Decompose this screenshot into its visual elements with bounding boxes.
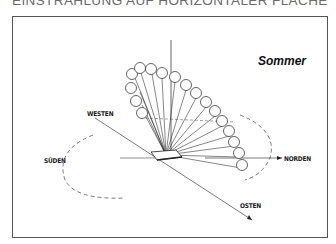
season-label: Sommer (258, 54, 306, 68)
direction-south: SÜDEN (44, 157, 66, 165)
direction-west: WESTEN (87, 110, 113, 118)
direction-east: OSTEN (240, 202, 261, 210)
horizon-arc-south (63, 135, 125, 198)
horizon-arc-north (240, 115, 271, 180)
sun-path-diagram (0, 0, 336, 244)
direction-north: NORDEN (284, 155, 311, 163)
